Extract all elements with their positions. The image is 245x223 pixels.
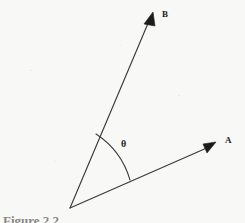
- figure-caption: Figure 2.2: [3, 214, 123, 223]
- vector-b-shaft: [70, 21, 149, 208]
- vector-angle-figure: B A θ Figure 2.2: [0, 0, 245, 223]
- vector-a-label: A: [225, 136, 232, 145]
- vector-a-shaft: [70, 147, 209, 208]
- vector-b-arrowhead: [144, 12, 155, 26]
- vector-a-arrowhead: [203, 142, 216, 153]
- figure-drawing-canvas: [0, 0, 245, 223]
- vector-b-label: B: [162, 10, 168, 19]
- angle-theta-label: θ: [121, 139, 126, 149]
